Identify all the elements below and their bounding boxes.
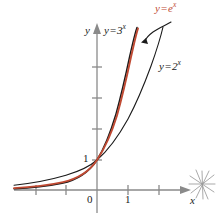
y-axis xyxy=(93,23,101,213)
exponential-functions-figure: y=ex y=3x y=2x y x 1 0 1 xyxy=(0,0,217,224)
curve-e-to-the-x xyxy=(14,29,138,189)
label-3-exponent: x xyxy=(123,22,126,31)
origin-label: 0 xyxy=(87,194,93,205)
x-axis-label: x xyxy=(190,195,195,206)
label-y-equals-2-to-the-x: y=2x xyxy=(159,61,181,72)
annotation-arrow xyxy=(141,22,171,44)
label-e-op: = xyxy=(160,2,168,14)
y-axis-label: y xyxy=(85,25,90,36)
curve-2-to-the-x xyxy=(14,27,163,185)
label-y-equals-e-to-the-x: y=ex xyxy=(155,3,176,14)
label-e-exponent: x xyxy=(173,0,176,9)
label-2-op: = xyxy=(164,60,172,72)
y-tick-label-1: 1 xyxy=(83,153,89,164)
label-y-equals-3-to-the-x: y=3x xyxy=(104,25,126,36)
label-3-op: = xyxy=(109,24,117,36)
label-2-exponent: x xyxy=(178,58,181,67)
x-tick-label-1: 1 xyxy=(125,194,131,205)
